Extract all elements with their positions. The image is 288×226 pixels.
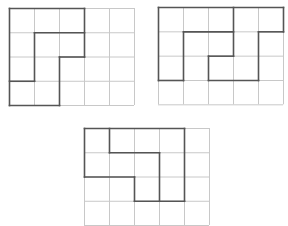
piece-outlines — [159, 8, 284, 81]
grid-bottom — [84, 128, 210, 226]
grid-top-right — [158, 7, 284, 105]
grid-top-left — [9, 8, 135, 106]
puzzle-canvas — [0, 0, 288, 226]
